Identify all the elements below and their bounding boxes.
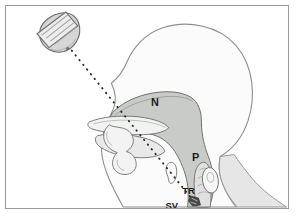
label-trachea: TR <box>182 185 195 196</box>
label-pharynx: P <box>192 151 199 163</box>
figure-frame: N P TR SV <box>5 5 289 209</box>
label-nasal-cavity: N <box>151 96 159 108</box>
ultrasound-transducer <box>37 12 80 52</box>
label-sample-volume: SV <box>165 200 178 208</box>
anatomical-diagram: N P TR SV <box>6 6 288 208</box>
